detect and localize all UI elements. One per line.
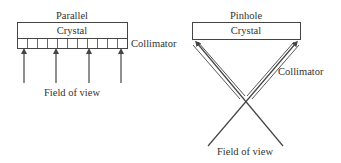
- parallel-arrows: [24, 51, 121, 83]
- parallel-collimator-grid: [18, 39, 128, 49]
- arrow-ray-icon: [208, 43, 296, 146]
- pinhole-field-of-view-label: Field of view: [217, 146, 273, 157]
- parallel-collimator-label: Collimator: [131, 38, 177, 49]
- parallel-collimator-panel: Parallel Crystal Collimator Field of vie…: [18, 10, 178, 98]
- pinhole-collimator-panel: Pinhole Crystal Collimator Field of view: [193, 10, 325, 157]
- parallel-collimator-septa: [28, 39, 118, 49]
- collimator-diagram: Parallel Crystal Collimator Field of vie…: [0, 0, 341, 163]
- pinhole-crystal-label: Crystal: [231, 25, 261, 36]
- parallel-field-of-view-label: Field of view: [44, 87, 100, 98]
- pinhole-collimator-label: Collimator: [278, 66, 324, 77]
- pinhole-title: Pinhole: [230, 10, 262, 21]
- arrow-ray-icon: [197, 43, 283, 146]
- parallel-crystal-label: Crystal: [57, 25, 87, 36]
- parallel-title: Parallel: [56, 10, 88, 21]
